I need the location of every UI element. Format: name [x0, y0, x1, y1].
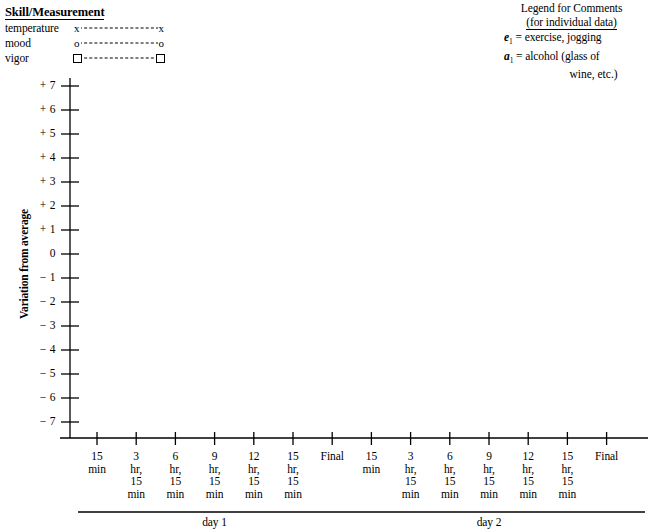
- x-axis-tick-label: 6hr,15min: [428, 450, 472, 500]
- x-axis-tick-label-line: hr,: [506, 463, 550, 476]
- x-axis-tick-label-line: 3: [114, 450, 158, 463]
- x-axis-tick-label-line: 15: [428, 475, 472, 488]
- x-axis-tick-label: 9hr,15min: [193, 450, 237, 500]
- x-axis-tick-label-line: hr,: [153, 463, 197, 476]
- x-axis-tick-label-line: 6: [153, 450, 197, 463]
- x-axis-tick-label: 15min: [75, 450, 119, 475]
- y-axis-tick-label: − 4: [22, 344, 56, 356]
- y-axis-tick-label: + 4: [22, 152, 56, 164]
- x-axis-tick-label-line: hr,: [114, 463, 158, 476]
- x-axis-tick-label-line: min: [114, 488, 158, 501]
- x-axis-tick-label-line: min: [271, 488, 315, 501]
- x-marker-icon: x: [73, 23, 81, 34]
- y-axis-tick-label: − 3: [22, 320, 56, 332]
- x-axis-tick-label-line: min: [428, 488, 472, 501]
- y-axis-tick-label: + 5: [22, 128, 56, 140]
- x-axis-tick-label-line: hr,: [545, 463, 589, 476]
- x-axis-tick-label-line: Final: [585, 450, 629, 463]
- square-marker-icon: [73, 54, 82, 63]
- x-axis-tick-label-line: min: [75, 463, 119, 476]
- x-axis-tick-label-line: 15: [389, 475, 433, 488]
- x-axis-tick-label-line: 6: [428, 450, 472, 463]
- x-axis-tick-label-line: hr,: [271, 463, 315, 476]
- y-axis-tick-label: − 2: [22, 296, 56, 308]
- day-group-label: day 2: [429, 516, 549, 528]
- x-axis-tick-label: 12hr,15min: [232, 450, 276, 500]
- x-axis-tick-label-line: 15: [545, 475, 589, 488]
- x-axis-tick-label-line: hr,: [428, 463, 472, 476]
- y-axis-tick-label: + 3: [22, 176, 56, 188]
- x-axis-tick-label-line: 15: [506, 475, 550, 488]
- x-axis-tick-label-line: 15: [545, 450, 589, 463]
- x-axis-tick-label-line: 12: [506, 450, 550, 463]
- x-axis-tick-label-line: 15: [193, 475, 237, 488]
- y-axis-tick-label: − 5: [22, 368, 56, 380]
- y-axis-tick-label: + 7: [22, 80, 56, 92]
- x-axis-tick-label: 3hr,15min: [114, 450, 158, 500]
- x-axis-tick-label-line: hr,: [389, 463, 433, 476]
- y-axis-tick-label: + 1: [22, 224, 56, 236]
- y-axis-tick-label: + 6: [22, 104, 56, 116]
- x-axis-tick-label-line: 15: [271, 475, 315, 488]
- x-axis-tick-label-line: min: [467, 488, 511, 501]
- y-axis-tick-label: − 1: [22, 272, 56, 284]
- x-axis-tick-label-line: 15: [349, 450, 393, 463]
- x-axis-tick-label-line: 15: [153, 475, 197, 488]
- y-axis-tick-label: + 2: [22, 200, 56, 212]
- square-marker-icon: [156, 54, 165, 63]
- x-axis-tick-label-line: 15: [114, 475, 158, 488]
- day-group-label: day 1: [155, 516, 275, 528]
- x-axis-tick-label-line: min: [153, 488, 197, 501]
- x-axis-tick-label-line: 15: [271, 450, 315, 463]
- x-axis-tick-label: Final: [310, 450, 354, 463]
- x-axis-tick-label: 15min: [349, 450, 393, 475]
- y-axis-tick-label: − 7: [22, 416, 56, 428]
- x-axis-tick-label: 9hr,15min: [467, 450, 511, 500]
- x-axis-tick-label-line: min: [193, 488, 237, 501]
- x-axis-tick-label: 15hr,15min: [545, 450, 589, 500]
- x-axis-tick-label-line: min: [232, 488, 276, 501]
- x-axis-tick-label: Final: [585, 450, 629, 463]
- x-marker-icon: x: [158, 23, 166, 34]
- x-axis-tick-label-line: 15: [467, 475, 511, 488]
- x-axis-tick-label: 6hr,15min: [153, 450, 197, 500]
- x-axis-tick-label-line: 9: [467, 450, 511, 463]
- y-axis-tick-label: − 6: [22, 392, 56, 404]
- x-axis-tick-label-line: hr,: [467, 463, 511, 476]
- circle-marker-icon: o: [158, 38, 166, 49]
- x-axis-tick-label-line: Final: [310, 450, 354, 463]
- x-axis-tick-label-line: 12: [232, 450, 276, 463]
- x-axis-tick-label: 15hr,15min: [271, 450, 315, 500]
- x-axis-tick-label-line: 3: [389, 450, 433, 463]
- x-axis-tick-label-line: 15: [232, 475, 276, 488]
- chart-plot-area: Variation from average + 7+ 6+ 5+ 4+ 3+ …: [0, 0, 653, 532]
- circle-marker-icon: o: [73, 38, 81, 49]
- x-axis-tick-label-line: min: [506, 488, 550, 501]
- x-axis-tick-label-line: min: [545, 488, 589, 501]
- x-axis-tick-label: 3hr,15min: [389, 450, 433, 500]
- x-axis-tick-label-line: hr,: [232, 463, 276, 476]
- x-axis-tick-label-line: hr,: [193, 463, 237, 476]
- x-axis-tick-label-line: 9: [193, 450, 237, 463]
- x-axis-tick-label: 12hr,15min: [506, 450, 550, 500]
- x-axis-tick-label-line: min: [389, 488, 433, 501]
- x-axis-tick-label-line: 15: [75, 450, 119, 463]
- x-axis-tick-label-line: min: [349, 463, 393, 476]
- y-axis-tick-label: 0: [22, 248, 56, 260]
